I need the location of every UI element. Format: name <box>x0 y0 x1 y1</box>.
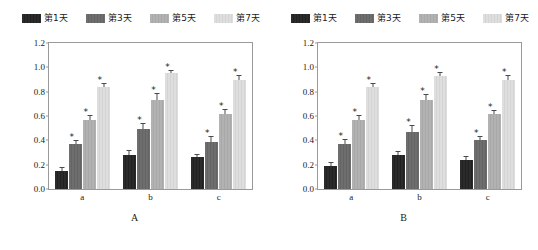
significance-marker: * <box>165 64 170 70</box>
legend-entry-1: 第1天 <box>22 14 68 23</box>
y-tick-mark <box>315 140 318 141</box>
error-bar <box>225 110 226 114</box>
x-tick-label-a: a <box>48 192 116 206</box>
legend-entry-4: 第7天 <box>214 14 260 23</box>
y-tick-mark <box>46 67 49 68</box>
bar-slot <box>460 43 473 189</box>
bar-slot: * <box>474 43 487 189</box>
plot-area-a: ********* 1.21.00.80.60.40.20.0 <box>48 42 253 190</box>
bar-a-series4[interactable]: * <box>97 87 110 189</box>
significance-marker: * <box>219 103 224 109</box>
legend-panel-a: 第1天第3天第5天第7天 <box>22 11 260 25</box>
x-tick-label-b: b <box>116 192 184 206</box>
significance-marker: * <box>339 133 344 139</box>
bar-group-b: *** <box>392 43 447 189</box>
error-bar <box>171 71 172 73</box>
bar-c-series3[interactable]: * <box>488 114 501 189</box>
error-bar <box>103 84 104 87</box>
significance-marker: * <box>84 109 89 115</box>
bar-slot: * <box>205 43 218 189</box>
legend-entry-2: 第3天 <box>86 14 132 23</box>
error-bar <box>372 84 373 87</box>
x-axis-ticks-a: abc <box>48 192 253 206</box>
bar-groups-b: ********* <box>318 43 521 189</box>
bar-slot: * <box>233 43 246 189</box>
legend-swatch-4 <box>483 14 502 23</box>
y-tick-mark <box>46 164 49 165</box>
bar-a-series2[interactable]: * <box>338 144 351 189</box>
bar-c-series4[interactable]: * <box>502 80 515 190</box>
bar-group-c: *** <box>460 43 515 189</box>
bar-b-series1[interactable] <box>392 155 405 189</box>
bar-slot <box>392 43 405 189</box>
legend-entry-3: 第5天 <box>419 14 465 23</box>
y-tick-mark <box>315 91 318 92</box>
error-bar-cap <box>328 162 333 163</box>
legend-swatch-2 <box>86 14 105 23</box>
significance-marker: * <box>488 104 493 110</box>
bar-c-series1[interactable] <box>460 160 473 189</box>
y-tick-mark <box>315 116 318 117</box>
bar-c-series3[interactable]: * <box>219 114 232 189</box>
error-bar <box>508 76 509 80</box>
legend-label-4: 第7天 <box>236 14 260 23</box>
bar-a-series4[interactable]: * <box>366 87 379 189</box>
error-bar <box>398 152 399 155</box>
error-bar <box>330 163 331 166</box>
bar-slot: * <box>137 43 150 189</box>
error-bar <box>344 140 345 144</box>
x-tick-label-b: b <box>385 192 453 206</box>
bar-b-series3[interactable]: * <box>420 100 433 189</box>
y-tick-mark <box>46 140 49 141</box>
error-bar <box>480 137 481 141</box>
legend-entry-4: 第7天 <box>483 14 529 23</box>
significance-marker: * <box>353 109 358 115</box>
bar-slot <box>324 43 337 189</box>
bar-group-b: *** <box>123 43 178 189</box>
bar-slot: * <box>151 43 164 189</box>
bar-b-series2[interactable]: * <box>406 132 419 189</box>
bar-group-a: *** <box>324 43 379 189</box>
significance-marker: * <box>70 134 75 140</box>
bar-slot <box>191 43 204 189</box>
legend-swatch-4 <box>214 14 233 23</box>
error-bar <box>197 155 198 157</box>
legend-panel-b: 第1天第3天第5天第7天 <box>291 11 529 25</box>
legend-swatch-1 <box>22 14 41 23</box>
bar-b-series2[interactable]: * <box>137 129 150 189</box>
legend-swatch-1 <box>291 14 310 23</box>
bar-slot: * <box>406 43 419 189</box>
bar-c-series2[interactable]: * <box>474 140 487 189</box>
bar-slot: * <box>366 43 379 189</box>
bar-b-series4[interactable]: * <box>434 76 447 189</box>
bar-slot: * <box>69 43 82 189</box>
legend-label-3: 第5天 <box>172 14 196 23</box>
bar-slot: * <box>97 43 110 189</box>
bar-a-series2[interactable]: * <box>69 144 82 189</box>
bar-c-series1[interactable] <box>191 157 204 189</box>
bar-slot: * <box>420 43 433 189</box>
bar-c-series2[interactable]: * <box>205 142 218 189</box>
bar-a-series3[interactable]: * <box>352 120 365 189</box>
bar-c-series4[interactable]: * <box>233 80 246 190</box>
bar-slot: * <box>434 43 447 189</box>
bar-b-series3[interactable]: * <box>151 100 164 189</box>
bar-slot <box>123 43 136 189</box>
error-bar <box>157 94 158 100</box>
mtt-absorbance-figure: 第1天第3天第5天第7天 MTT吸光度指数(680 nm) ********* … <box>0 0 538 250</box>
legend-entry-3: 第5天 <box>150 14 196 23</box>
chart-panel-a: 第1天第3天第5天第7天 MTT吸光度指数(680 nm) ********* … <box>0 0 269 250</box>
significance-marker: * <box>502 69 507 75</box>
error-bar <box>426 95 427 100</box>
bar-slot: * <box>338 43 351 189</box>
bar-a-series1[interactable] <box>324 166 337 189</box>
bar-b-series4[interactable]: * <box>165 73 178 189</box>
y-tick-mark <box>315 67 318 68</box>
legend-swatch-3 <box>150 14 169 23</box>
bar-b-series1[interactable] <box>123 155 136 189</box>
bar-a-series3[interactable]: * <box>83 120 96 189</box>
bar-a-series1[interactable] <box>55 171 68 189</box>
y-tick-mark <box>46 189 49 190</box>
significance-marker: * <box>205 130 210 136</box>
significance-marker: * <box>420 88 425 94</box>
